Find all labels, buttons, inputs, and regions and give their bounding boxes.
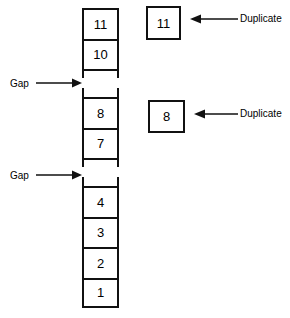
cell-label: 1 xyxy=(97,286,104,299)
cell-value: 2 xyxy=(82,247,119,278)
cell-label: 8 xyxy=(97,107,104,120)
cell-label: 7 xyxy=(97,137,104,150)
gap-wall-stub-right xyxy=(117,177,119,186)
cell-gap xyxy=(82,158,119,186)
cell-value: 1 xyxy=(82,278,119,309)
duplicate-arrow-icon xyxy=(190,12,238,26)
main-column: 11 10 8 7 4 3 2 1 xyxy=(82,8,119,308)
duplicate-box-label: 8 xyxy=(163,110,170,123)
gap-arrow-icon xyxy=(36,76,82,90)
cell-label: 4 xyxy=(97,196,104,209)
gap-annotation-label: Gap xyxy=(10,171,29,181)
duplicate-arrow-icon xyxy=(194,107,238,121)
cell-value: 10 xyxy=(82,39,119,70)
gap-wall-stub-left xyxy=(82,177,84,186)
cell-label: 10 xyxy=(93,48,107,61)
gap-annotation-label: Gap xyxy=(10,79,29,89)
duplicate-annotation-label: Duplicate xyxy=(240,14,282,24)
cell-label: 2 xyxy=(97,257,104,270)
cell-gap xyxy=(82,69,119,97)
cell-label: 3 xyxy=(97,226,104,239)
duplicate-box-label: 11 xyxy=(157,17,171,30)
gap-wall-stub-left xyxy=(82,88,84,97)
duplicate-annotation-label: Duplicate xyxy=(240,109,282,119)
cell-value: 11 xyxy=(82,8,119,39)
cell-value: 4 xyxy=(82,186,119,217)
gap-wall-stub-right xyxy=(117,88,119,97)
diagram-canvas: 11 10 8 7 4 3 2 1 xyxy=(0,0,290,318)
gap-arrow-icon xyxy=(36,168,82,182)
cell-value: 3 xyxy=(82,217,119,248)
duplicate-box: 11 xyxy=(146,6,181,40)
duplicate-box: 8 xyxy=(148,100,185,133)
cell-value: 8 xyxy=(82,97,119,128)
cell-value: 7 xyxy=(82,128,119,159)
cell-label: 11 xyxy=(94,18,108,31)
